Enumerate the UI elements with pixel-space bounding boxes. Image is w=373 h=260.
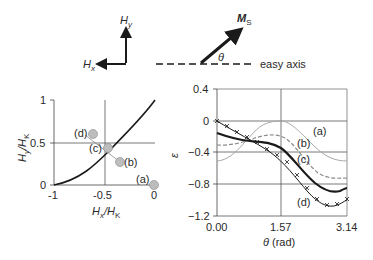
curve-label-d: (d) — [297, 196, 310, 208]
curve-label-b: (b) — [297, 137, 310, 149]
right-chart: 0.4 0 −0.4 −0.8 −1.2 0.00 1.57 3.14 ε θ … — [168, 83, 357, 248]
field-diagram: Hy Hx easy axis MS θ — [83, 12, 306, 73]
easy-axis-label: easy axis — [260, 58, 306, 70]
left-chart: 1 0.5 0 -1 -0.5 0 Hx/HK Hy/HK (a) (b) (c… — [16, 94, 159, 220]
point-a — [150, 181, 159, 190]
curve-d — [217, 121, 347, 206]
hx-label: Hx — [83, 58, 96, 73]
x-axis-label: Hx/HK — [92, 205, 121, 220]
y-axis-label: ε — [168, 153, 180, 158]
curve-label-a: (a) — [313, 125, 326, 137]
curve-a — [217, 121, 347, 161]
y-tick: 0 — [40, 179, 46, 191]
y-axis-label: Hy/HK — [16, 133, 31, 162]
x-tick: 0 — [151, 189, 157, 201]
theta-label: θ — [218, 51, 224, 63]
x-tick: -1 — [48, 189, 58, 201]
y-tick: −0.4 — [188, 146, 210, 158]
x-axis-label: θ (rad) — [263, 236, 295, 248]
x-tick: -0.5 — [93, 189, 112, 201]
point-d — [89, 130, 98, 139]
point-label-c: (c) — [89, 142, 102, 154]
curve-label-c: (c) — [297, 153, 310, 165]
x-tick: 1.57 — [270, 221, 291, 233]
ms-label: MS — [237, 12, 252, 27]
y-tick: 0.5 — [30, 137, 45, 149]
y-tick: 0 — [203, 115, 209, 127]
point-label-d: (d) — [74, 127, 87, 139]
y-tick: 0.4 — [193, 83, 208, 95]
point-label-a: (a) — [136, 173, 149, 185]
y-tick: 1 — [40, 94, 46, 106]
hy-label: Hy — [120, 14, 133, 29]
x-tick: 0.00 — [206, 221, 227, 233]
point-c — [104, 144, 113, 153]
x-tick: 3.14 — [336, 221, 357, 233]
point-label-b: (b) — [124, 156, 137, 168]
figure-canvas: Hy Hx easy axis MS θ 1 0.5 0 -1 -0.5 0 H… — [0, 0, 373, 260]
y-tick: −0.8 — [188, 178, 210, 190]
